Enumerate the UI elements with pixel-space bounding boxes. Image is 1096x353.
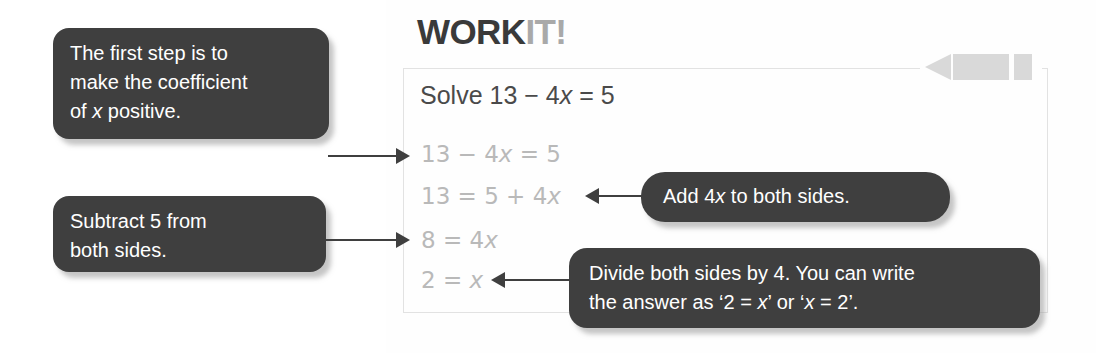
callout-line-prefix: Add 4 (663, 185, 715, 207)
pencil-icon (925, 54, 1037, 80)
step-tail: = 5 (512, 141, 561, 167)
callout-variable: x (757, 291, 767, 313)
callout-line: The first step is to (70, 39, 312, 68)
solution-step: 2 = x (421, 266, 483, 294)
callout-line-suffix: positive. (102, 100, 181, 122)
step-variable: x (499, 141, 513, 167)
solution-step: 13 = 5 + 4x (421, 182, 561, 210)
solution-step: 8 = 4x (421, 226, 498, 254)
page-title-primary: WORK (417, 12, 525, 51)
callout-divide: Divide both sides by 4. You can write th… (569, 248, 1040, 328)
solution-step: 13 − 4x = 5 (421, 140, 561, 168)
prompt-prefix: Solve 13 − 4 (420, 81, 560, 109)
problem-prompt: Solve 13 − 4x = 5 (420, 80, 615, 110)
step-text: 2 = (421, 267, 470, 293)
step-text: 13 − 4 (421, 141, 499, 167)
page-title: WORKIT! (417, 12, 566, 52)
step-variable: x (484, 227, 498, 253)
callout-line: of x positive. (70, 97, 312, 126)
arrow-head (491, 272, 505, 288)
callout-first-step: The first step is to make the coefficien… (53, 28, 329, 139)
callout-line: Divide both sides by 4. You can write (589, 259, 1020, 288)
callout-line-mid: ’ or ‘ (767, 291, 804, 313)
arrow-head (585, 188, 599, 204)
arrow-shaft (503, 279, 575, 281)
step-text: 8 = 4 (421, 227, 484, 253)
callout-line: Subtract 5 from (70, 207, 309, 236)
callout-subtract: Subtract 5 from both sides. (53, 196, 326, 272)
callout-variable: x (92, 100, 102, 122)
callout-add: Add 4x to both sides. (641, 172, 950, 222)
arrow-shaft (328, 155, 398, 157)
prompt-suffix: = 5 (572, 81, 614, 109)
step-variable: x (547, 183, 561, 209)
callout-line-suffix: = 2’. (814, 291, 858, 313)
callout-line: make the coefficient (70, 68, 312, 97)
prompt-variable: x (560, 81, 573, 109)
arrow-shaft (326, 239, 398, 241)
callout-line: both sides. (70, 236, 309, 265)
step-text: 13 = 5 + 4 (421, 183, 547, 209)
page-title-secondary: IT! (525, 12, 566, 51)
step-variable: x (470, 267, 484, 293)
callout-line: the answer as ‘2 = x’ or ‘x = 2’. (589, 288, 1020, 317)
callout-line-prefix: the answer as ‘2 = (589, 291, 757, 313)
arrow-head (396, 148, 410, 164)
arrow-shaft (597, 195, 647, 197)
worksheet-page: WORKIT! Solve 13 − 4x = 5 13 − 4x = 5 13… (0, 0, 1096, 353)
callout-variable: x (715, 185, 725, 207)
callout-line-prefix: of (70, 100, 92, 122)
callout-variable: x (804, 291, 814, 313)
callout-line-suffix: to both sides. (725, 185, 850, 207)
arrow-head (396, 232, 410, 248)
